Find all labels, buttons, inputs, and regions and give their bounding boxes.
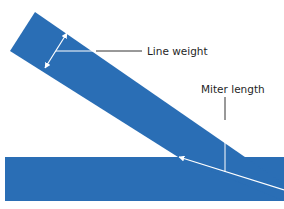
miter-length-label: Miter length	[201, 83, 265, 95]
miter-join-diagram: Line weight Miter length	[0, 0, 284, 209]
line-weight-label: Line weight	[147, 45, 208, 57]
